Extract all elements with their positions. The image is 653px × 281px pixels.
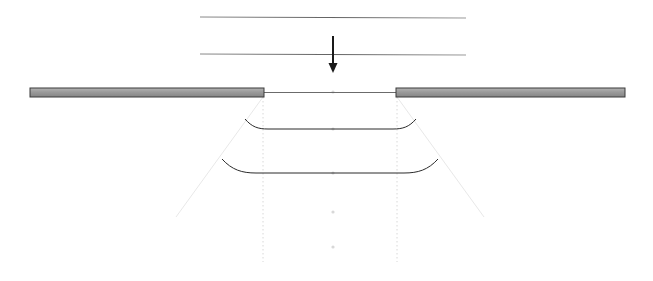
figure-background [0, 0, 653, 281]
centerline-dot-0 [331, 90, 334, 93]
diagram-canvas [0, 0, 653, 281]
centerline-dot-4 [331, 245, 334, 248]
centerline-dot-3 [331, 210, 334, 213]
technical-diagram-figure [0, 0, 653, 281]
right-bearing-plate [396, 88, 625, 97]
left-bearing-plate [30, 88, 264, 97]
